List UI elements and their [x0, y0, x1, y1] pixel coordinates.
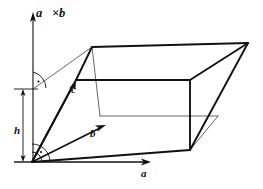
base-front-edge	[32, 150, 190, 162]
right-angle-origin-dot	[40, 151, 42, 153]
side-edge-far-right	[190, 43, 248, 150]
vector-diagram-figure: a⃗×b⃗ c⃗ b⃗ a⃗ h	[0, 0, 263, 189]
vector-c-label: c⃗	[71, 84, 84, 95]
top-face-back-edge	[92, 43, 248, 47]
cross-product-label: a⃗×b⃗	[36, 7, 75, 20]
right-angle-marker-top	[33, 72, 46, 88]
top-face-left-edge	[76, 47, 92, 80]
vector-c-shaft	[32, 87, 72, 162]
height-label: h	[14, 125, 20, 136]
hidden-inner-right-edge	[190, 116, 218, 150]
vector-b-label: b⃗	[90, 128, 104, 139]
cross-product-axis	[30, 12, 36, 162]
right-angle-top-arc	[33, 72, 46, 88]
vector-a-label: a⃗	[141, 168, 155, 179]
top-face-right-edge	[190, 43, 248, 80]
right-angle-top-dot	[37, 80, 39, 82]
back-vertical-edge	[92, 47, 100, 116]
vector-c	[32, 80, 76, 162]
parallelepiped-drawing	[0, 0, 263, 189]
